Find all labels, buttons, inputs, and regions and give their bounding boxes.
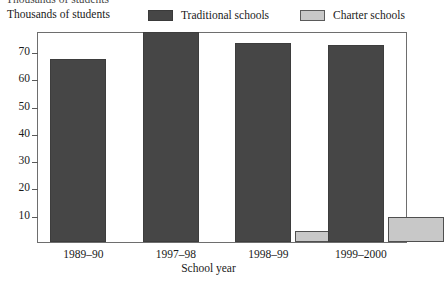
y-axis-tick-label: 50 bbox=[19, 101, 31, 113]
x-axis-tick-label: 1989–90 bbox=[37, 248, 130, 260]
bar-traditional bbox=[143, 32, 199, 242]
y-axis-tick-label: 60 bbox=[19, 73, 31, 85]
x-axis-tick-label: 1999–2000 bbox=[315, 248, 408, 260]
plot-frame bbox=[37, 32, 407, 243]
charter-swatch-icon bbox=[300, 10, 325, 21]
y-axis-tick-label: 40 bbox=[19, 128, 31, 140]
clipped-top-text: Thousands of students bbox=[6, 0, 136, 3]
bar-traditional bbox=[328, 45, 384, 242]
bar-group bbox=[38, 33, 131, 242]
y-axis-caption: Thousands of students bbox=[7, 8, 110, 20]
y-axis-tick-label: 10 bbox=[19, 210, 31, 222]
chart-header: Thousands of students Traditional school… bbox=[0, 8, 417, 26]
legend-label-traditional: Traditional schools bbox=[181, 9, 269, 21]
y-axis-tick-label: 20 bbox=[19, 182, 31, 194]
traditional-swatch-icon bbox=[148, 10, 173, 21]
x-axis-title: School year bbox=[0, 262, 417, 274]
bar-traditional bbox=[235, 43, 291, 242]
bar-group bbox=[316, 33, 409, 242]
bar-charter bbox=[388, 217, 444, 242]
legend-item-charter: Charter schools bbox=[300, 8, 405, 22]
bar-traditional bbox=[50, 59, 106, 242]
plot-area bbox=[38, 33, 406, 242]
x-axis-tick-label: 1998–99 bbox=[222, 248, 315, 260]
bar-group bbox=[131, 33, 224, 242]
y-axis-tick-label: 70 bbox=[19, 46, 31, 58]
bar-group bbox=[223, 33, 316, 242]
legend-label-charter: Charter schools bbox=[333, 9, 405, 21]
legend-item-traditional: Traditional schools bbox=[148, 8, 269, 22]
y-axis-tick-label: 30 bbox=[19, 155, 31, 167]
x-axis-tick-label: 1997–98 bbox=[130, 248, 223, 260]
y-axis-labels: 10203040506070 bbox=[0, 32, 32, 243]
